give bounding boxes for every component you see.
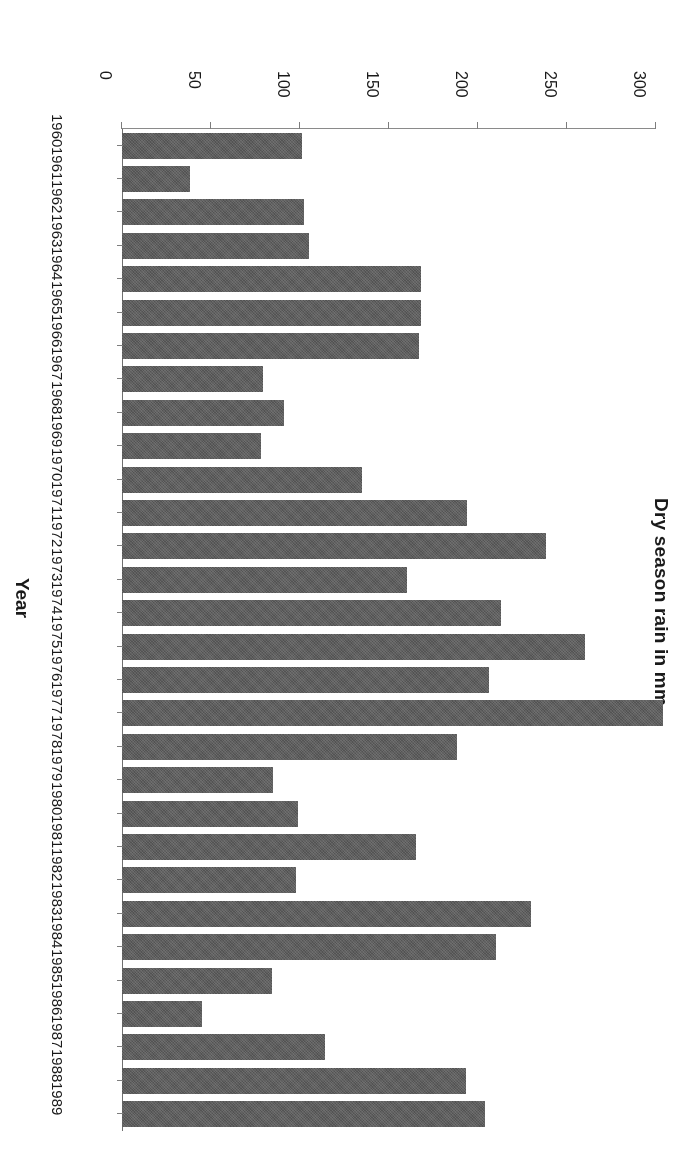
category-tick [117, 946, 123, 947]
bar [122, 868, 296, 894]
category-tick [117, 846, 123, 847]
plot-area: 050100150200250300 196019611962196319641… [122, 129, 656, 1131]
bar-chart-figure: Dry season rain in mm Year 0501001502002… [0, 0, 698, 1149]
category-tick [117, 1113, 123, 1114]
value-tick [388, 122, 389, 129]
category-tick [117, 679, 123, 680]
bar [122, 1001, 202, 1027]
category-tick [117, 746, 123, 747]
category-tick [117, 178, 123, 179]
value-tick-label: 200 [452, 71, 470, 131]
value-tick [121, 122, 122, 129]
bar [122, 467, 362, 493]
bar [122, 701, 663, 727]
bar [122, 433, 261, 459]
figure-rotation-wrapper: Dry season rain in mm Year 0501001502002… [0, 0, 698, 1149]
bar [122, 500, 467, 526]
category-tick [117, 646, 123, 647]
category-tick [117, 713, 123, 714]
value-tick-label: 300 [630, 71, 648, 131]
value-tick-label: 0 [96, 71, 114, 131]
category-tick [117, 980, 123, 981]
value-tick-label: 250 [541, 71, 559, 131]
category-tick [117, 913, 123, 914]
category-tick [117, 479, 123, 480]
bar [122, 901, 531, 927]
bar [122, 734, 457, 760]
category-tick [117, 379, 123, 380]
category-tick [117, 445, 123, 446]
value-tick-label: 100 [274, 71, 292, 131]
category-tick [117, 1047, 123, 1048]
category-tick [117, 1013, 123, 1014]
bar [122, 200, 304, 226]
bar [122, 968, 272, 994]
bar [122, 567, 407, 593]
bar [122, 934, 496, 960]
category-axis-title: Year [11, 518, 33, 678]
bar [122, 534, 546, 560]
bar [122, 333, 419, 359]
bar [122, 166, 190, 192]
value-tick [566, 122, 567, 129]
bar [122, 801, 298, 827]
category-tick [117, 813, 123, 814]
category-tick [117, 312, 123, 313]
bar [122, 767, 273, 793]
category-tick [117, 212, 123, 213]
bar [122, 300, 421, 326]
bar [122, 834, 416, 860]
category-tick-label: 1989 [49, 1082, 66, 1149]
value-tick [299, 122, 300, 129]
category-tick [117, 1080, 123, 1081]
category-tick [117, 245, 123, 246]
category-tick [117, 779, 123, 780]
bar [122, 400, 284, 426]
bar [122, 133, 302, 159]
value-tick [210, 122, 211, 129]
bar [122, 1035, 325, 1061]
value-tick-label: 150 [363, 71, 381, 131]
bar [122, 233, 309, 259]
bar [122, 1101, 485, 1127]
bar [122, 600, 501, 626]
value-tick [477, 122, 478, 129]
category-tick [117, 145, 123, 146]
bar [122, 266, 421, 292]
category-tick [117, 579, 123, 580]
bar [122, 1068, 466, 1094]
category-tick [117, 278, 123, 279]
bar [122, 667, 489, 693]
category-tick [117, 546, 123, 547]
bar [122, 367, 263, 393]
category-tick [117, 880, 123, 881]
value-tick-label: 50 [185, 71, 203, 131]
category-tick [117, 412, 123, 413]
value-tick [655, 122, 656, 129]
category-tick [117, 512, 123, 513]
category-tick [117, 345, 123, 346]
category-tick [117, 612, 123, 613]
bar [122, 634, 585, 660]
